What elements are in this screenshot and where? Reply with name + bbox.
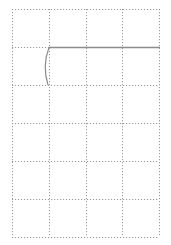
grid-diagram: [0, 0, 171, 245]
dotted-grid: [12, 9, 160, 238]
curved-stroke: [45, 48, 49, 86]
